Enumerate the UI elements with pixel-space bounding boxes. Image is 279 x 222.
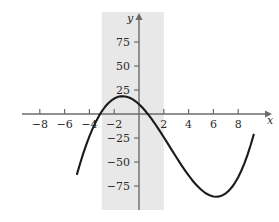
y-tick-label: −50 — [107, 156, 130, 169]
x-tick-label: 2 — [160, 118, 167, 131]
y-tick-label: −75 — [107, 180, 130, 193]
cubic-function-plot: −8−6−4−22468 x 755025−25−50−75 y — [0, 0, 279, 222]
x-tick-label: −2 — [106, 118, 122, 131]
chart-figure: −8−6−4−22468 x 755025−25−50−75 y — [0, 0, 279, 222]
x-axis-label: x — [267, 114, 274, 127]
y-axis-label: y — [126, 12, 134, 25]
y-tick-label: −25 — [107, 132, 130, 145]
y-tick-label: 75 — [116, 36, 130, 49]
x-tick-label: 4 — [185, 118, 192, 131]
x-tick-label: 8 — [235, 118, 242, 131]
x-tick-label: −6 — [56, 118, 72, 131]
y-tick-label: 25 — [116, 84, 130, 97]
y-tick-label: 50 — [116, 60, 130, 73]
x-tick-label: −8 — [32, 118, 48, 131]
x-tick-label: 6 — [210, 118, 217, 131]
